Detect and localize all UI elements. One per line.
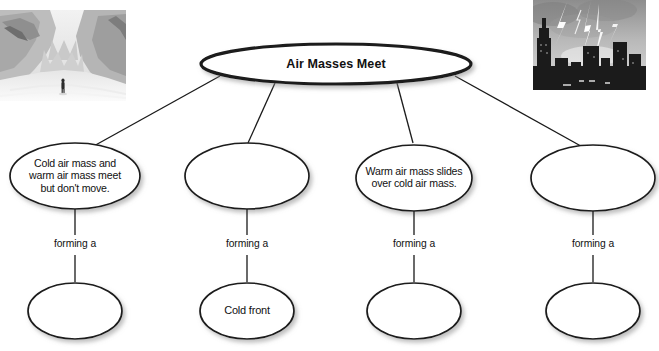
result-ellipse-3 <box>367 283 461 339</box>
branch-description-3: Warm air mass slides over cold air mass. <box>356 165 472 190</box>
result-ellipse-1 <box>28 283 122 339</box>
connector-label-4: forming a <box>543 238 643 250</box>
connector-root-to-branch-4 <box>455 76 588 150</box>
connector-label-2: forming a <box>197 238 297 250</box>
connector-root-to-branch-3 <box>397 83 413 143</box>
branch-description-1: Cold air mass and warm air mass meet but… <box>11 157 139 194</box>
connector-root-to-branch-2 <box>248 83 275 143</box>
root-label: Air Masses Meet <box>201 57 471 72</box>
branch-ellipse-2 <box>185 143 309 209</box>
diagram-canvas: Air Masses Meet Cold air mass and warm a… <box>0 0 659 351</box>
connector-label-1: forming a <box>25 238 125 250</box>
result-label-2: Cold front <box>200 304 294 317</box>
result-ellipse-4 <box>546 283 640 339</box>
connector-root-to-branch-1 <box>83 76 220 152</box>
connector-label-3: forming a <box>364 238 464 250</box>
branch-ellipse-4 <box>531 145 655 211</box>
